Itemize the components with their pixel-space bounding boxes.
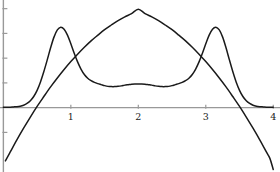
x-tick-label: 4 [270,112,276,122]
x-tick-label: 2 [135,112,141,122]
x-tick-label: 3 [203,112,209,122]
chart-figure: 1234 -11234 [0,0,280,172]
series-bimodal-curve [3,27,273,107]
series-group [3,9,273,169]
series-dome-curve [5,9,273,169]
x-tick-label: 1 [68,112,74,122]
plot-area [0,0,280,172]
